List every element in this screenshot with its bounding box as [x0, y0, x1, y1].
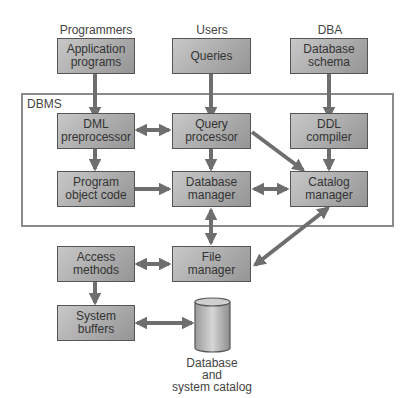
box-database-manager: Database manager	[172, 171, 251, 207]
box-label: Database schema	[303, 43, 354, 69]
box-database-schema: Database schema	[290, 38, 368, 74]
storage-label: Database and system catalog	[162, 357, 262, 393]
box-label: Query processor	[185, 118, 238, 144]
box-system-buffers: System buffers	[57, 305, 135, 341]
actor-dba: DBA	[290, 23, 370, 37]
dbms-architecture-diagram: DBMS	[0, 0, 415, 398]
box-label: Access methods	[73, 251, 119, 277]
box-catalog-manager: Catalog manager	[290, 171, 368, 207]
box-label: Database manager	[186, 176, 237, 202]
box-label: DML preprocessor	[61, 118, 131, 144]
database-cylinder-icon	[195, 298, 230, 352]
box-label: System buffers	[76, 310, 116, 336]
box-application-programs: Application programs	[57, 38, 135, 74]
box-program-object-code: Program object code	[57, 171, 135, 207]
box-file-manager: File manager	[172, 246, 251, 282]
box-label: Catalog manager	[305, 176, 352, 202]
actor-programmers: Programmers	[56, 23, 136, 37]
box-label: Application programs	[67, 43, 126, 69]
box-label: Program object code	[65, 176, 126, 202]
box-label: Queries	[190, 50, 232, 63]
arrow-cat-file	[255, 208, 328, 265]
box-queries: Queries	[172, 38, 251, 74]
box-label: File manager	[188, 251, 235, 277]
actor-users: Users	[172, 23, 252, 37]
box-dml-preprocessor: DML preprocessor	[57, 113, 135, 149]
box-ddl-compiler: DDL compiler	[290, 113, 368, 149]
box-query-processor: Query processor	[172, 113, 251, 149]
box-access-methods: Access methods	[57, 246, 135, 282]
box-label: DDL compiler	[306, 118, 351, 144]
